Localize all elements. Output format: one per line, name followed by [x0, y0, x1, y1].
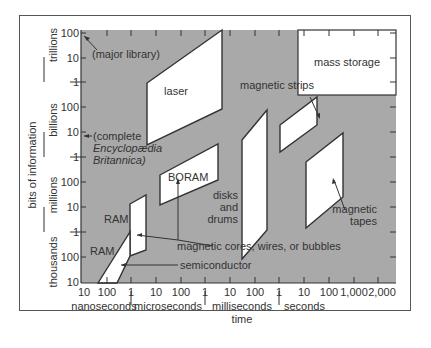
- svg-text:10: 10: [150, 286, 162, 298]
- svg-text:1: 1: [202, 286, 208, 298]
- y-tick-labels: 100101 100101 100101 10010: [61, 27, 79, 288]
- svg-text:10: 10: [67, 126, 79, 138]
- y-group-thousands: thousands: [47, 236, 59, 287]
- svg-text:100: 100: [172, 286, 190, 298]
- y-group-millions: millions: [47, 176, 59, 213]
- x-axis-label: time: [232, 313, 253, 325]
- svg-text:1: 1: [73, 151, 79, 163]
- britannica-label-3: Britannica): [93, 154, 146, 166]
- ram-lower-label: RAM: [90, 245, 114, 257]
- svg-text:100: 100: [61, 251, 79, 263]
- tapes-label-2: tapes: [350, 215, 377, 227]
- svg-text:10: 10: [67, 201, 79, 213]
- svg-text:1: 1: [73, 226, 79, 238]
- semiconductor-label: semiconductor: [180, 259, 252, 271]
- svg-text:10: 10: [78, 286, 90, 298]
- y-group-trillions: trillions: [47, 27, 59, 62]
- svg-text:1,000: 1,000: [340, 286, 368, 298]
- cores-label: magnetic cores, wires, or bubbles: [177, 240, 341, 252]
- svg-text:100: 100: [61, 176, 79, 188]
- svg-text:1: 1: [276, 286, 282, 298]
- x-tick-labels: 101001 101001 101001 101001,0002,000: [78, 286, 396, 298]
- y-group-billions: billions: [47, 103, 59, 137]
- britannica-label-2: Encyclopædia: [93, 142, 162, 154]
- svg-text:10: 10: [67, 52, 79, 64]
- svg-text:1: 1: [128, 286, 134, 298]
- boram-label: BORAM: [168, 171, 208, 183]
- svg-text:100: 100: [246, 286, 264, 298]
- ram-upper-label: RAM: [104, 213, 128, 225]
- svg-text:100: 100: [98, 286, 116, 298]
- x-group-microseconds: microseconds: [134, 300, 202, 312]
- major-library-label: (major library): [92, 48, 160, 60]
- svg-text:100: 100: [320, 286, 338, 298]
- region-ram-cores: [130, 195, 146, 256]
- x-group-seconds: seconds: [284, 300, 325, 312]
- chart-svg: 100101 100101 100101 10010 101001 101001…: [0, 0, 431, 348]
- y-axis-label: bits of information: [26, 122, 38, 209]
- x-group-nanoseconds: nanoseconds: [71, 300, 137, 312]
- svg-text:10: 10: [298, 286, 310, 298]
- disks-label-3: drums: [207, 213, 238, 225]
- x-group-milliseconds: milliseconds: [212, 300, 272, 312]
- britannica-label-1: (complete: [93, 130, 141, 142]
- laser-label: laser: [164, 85, 188, 97]
- mass-storage-label: mass storage: [314, 56, 380, 68]
- svg-text:100: 100: [61, 101, 79, 113]
- svg-text:1: 1: [73, 76, 79, 88]
- tapes-label-1: magnetic: [332, 203, 377, 215]
- svg-text:10: 10: [224, 286, 236, 298]
- disks-label-2: and: [220, 201, 238, 213]
- disks-label-1: disks: [213, 189, 239, 201]
- magnetic-strips-label: magnetic strips: [240, 79, 314, 91]
- svg-text:100: 100: [61, 27, 79, 39]
- svg-text:2,000: 2,000: [368, 286, 396, 298]
